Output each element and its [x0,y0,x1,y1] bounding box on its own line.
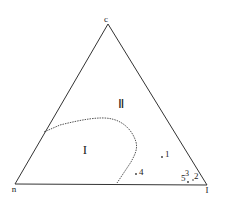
point-marker-1 [161,156,163,158]
ternary-triangle [15,24,207,185]
ternary-diagram: c n I I Ⅱ 1 4 5 3 2 [0,0,226,205]
point-marker-3 [187,181,189,183]
region-label-2: Ⅱ [118,96,124,111]
point-label-4: 4 [139,167,144,177]
point-marker-4 [135,173,137,175]
point-label-1: 1 [165,149,170,159]
point-label-3: 3 [185,169,189,178]
phase-boundary [44,118,137,183]
region-label-1: I [83,142,87,157]
vertex-label-right: I [206,185,209,195]
vertex-label-top: c [104,14,108,24]
vertex-label-left: n [12,184,17,194]
point-label-2: 2 [194,171,199,181]
